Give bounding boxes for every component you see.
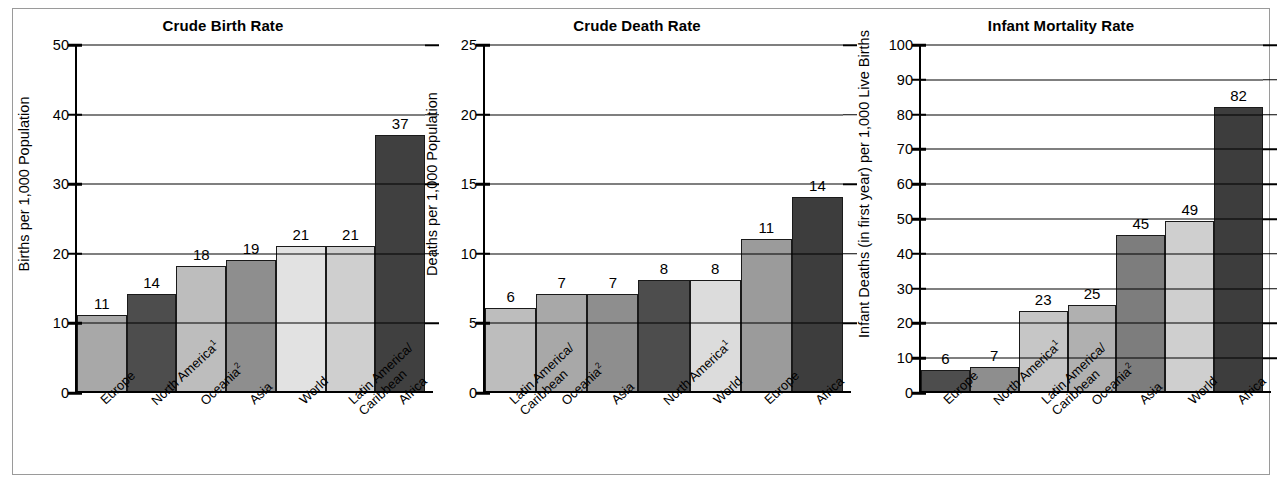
bar-slot: 8 (638, 45, 689, 391)
gridline (921, 79, 1263, 80)
gridline (77, 323, 425, 324)
bar-value-label: 14 (809, 177, 826, 194)
y-tick-label: 10 (897, 350, 913, 366)
gridline (921, 45, 1263, 46)
x-label-slot: Africa (1235, 397, 1268, 412)
y-tick-labels: 01020304050 (35, 45, 75, 393)
bar-value-label: 14 (143, 274, 160, 291)
y-tick-label: 20 (461, 107, 477, 123)
x-label-slot: World (297, 397, 331, 412)
gridline (485, 323, 843, 324)
axes-area: 677881114 (483, 45, 843, 393)
x-tick-labels: Latin America/CaribbeanOceania2AsiaNorth… (483, 393, 843, 485)
bar-value-label: 11 (758, 219, 774, 236)
y-tick-label: 40 (53, 107, 69, 123)
bar-value-label: 7 (558, 274, 566, 291)
y-tick-mark-right (1263, 183, 1277, 185)
y-tick-mark-right (1263, 149, 1277, 151)
gridline (77, 114, 425, 115)
bar-slot: 14 (792, 45, 843, 391)
bar[interactable]: 21 (326, 246, 376, 391)
bar-value-label: 18 (193, 246, 210, 263)
bar-value-label: 8 (660, 260, 668, 277)
y-tick-label: 25 (461, 37, 477, 53)
gridline (921, 253, 1263, 254)
x-label-slot: Africa (813, 397, 846, 412)
y-tick-label: 50 (897, 211, 913, 227)
gridline (77, 45, 425, 46)
x-label-slot: Oceania2 (558, 397, 611, 413)
bar-value-label: 25 (1084, 285, 1101, 302)
y-tick-label: 10 (53, 315, 69, 331)
y-tick-mark-right (1263, 79, 1277, 81)
y-tick-mark-right (1263, 288, 1277, 290)
bar-value-label: 82 (1230, 87, 1247, 104)
x-label-slot: Asia (247, 397, 272, 412)
axes-area: 11141819212137 (75, 45, 425, 393)
bar[interactable]: 21 (276, 246, 326, 391)
bar-value-label: 49 (1181, 201, 1198, 218)
bar[interactable]: 49 (1165, 221, 1214, 391)
bar-slot: 6 (485, 45, 536, 391)
bar-slot: 19 (226, 45, 276, 391)
bar-value-label: 23 (1035, 291, 1052, 308)
gridline (921, 149, 1263, 150)
x-label-slot: Europe (762, 397, 804, 412)
y-tick-label: 20 (53, 246, 69, 262)
y-tick-label: 15 (461, 176, 477, 192)
chart-title: Crude Death Rate (421, 17, 853, 34)
gridline (485, 184, 843, 185)
gridline (921, 219, 1263, 220)
chart-title: Infant Mortality Rate (853, 17, 1269, 34)
y-tick-mark-right (1263, 218, 1277, 220)
y-tick-mark-right (1263, 44, 1277, 46)
bar-slot: 8 (690, 45, 741, 391)
bar-value-label: 21 (342, 226, 359, 243)
chart-title: Crude Birth Rate (13, 17, 433, 34)
y-axis-label: Deaths per 1,000 Population (421, 9, 443, 359)
y-axis-label: Infant Deaths (in first year) per 1,000 … (853, 9, 875, 359)
y-axis-label: Births per 1,000 Population (13, 9, 35, 359)
bar[interactable]: 8 (638, 280, 689, 391)
y-tick-label: 30 (897, 281, 913, 297)
bar-value-label: 6 (941, 350, 949, 367)
gridline (921, 288, 1263, 289)
bar-slot: 18 (176, 45, 226, 391)
bar-value-label: 6 (506, 288, 514, 305)
figure-border: Crude Birth Rate Births per 1,000 Popula… (12, 8, 1270, 475)
bar-value-label: 37 (392, 115, 409, 132)
x-label-slot: World (711, 397, 745, 412)
plot-area: 0510152025 677881114 Latin America/Carib… (443, 45, 843, 393)
y-tick-label: 20 (897, 315, 913, 331)
y-tick-label: 40 (897, 246, 913, 262)
gridline (485, 253, 843, 254)
plot-area: 01020304050 11141819212137 EuropeNorth A… (35, 45, 425, 393)
x-label-slot: Europe (941, 397, 983, 412)
bar-series: 677881114 (485, 45, 843, 391)
y-tick-label: 100 (889, 37, 913, 53)
y-tick-label: 10 (461, 246, 477, 262)
bar-slot: 21 (276, 45, 326, 391)
x-label-slot: Oceania2 (1088, 397, 1141, 413)
bar-series: 11141819212137 (77, 45, 425, 391)
chart-panel-infant-mortality-rate: Infant Mortality Rate Infant Deaths (in … (853, 9, 1269, 476)
y-tick-label: 90 (897, 72, 913, 88)
bar-slot: 11 (741, 45, 792, 391)
bar[interactable]: 14 (792, 197, 843, 391)
bar-slot: 7 (587, 45, 638, 391)
y-tick-label: 80 (897, 107, 913, 123)
y-tick-labels: 0510152025 (443, 45, 483, 393)
gridline (77, 184, 425, 185)
bar-slot: 21 (326, 45, 376, 391)
bar-value-label: 7 (990, 347, 998, 364)
gridline (921, 184, 1263, 185)
x-tick-labels: EuropeNorth America1Oceania2AsiaWorldLat… (75, 393, 425, 485)
axes-area: 672325454982 (919, 45, 1263, 393)
y-tick-label: 50 (53, 37, 69, 53)
bar-value-label: 21 (292, 226, 309, 243)
chart-panel-crude-death-rate: Crude Death Rate Deaths per 1,000 Popula… (421, 9, 853, 476)
y-tick-label: 30 (53, 176, 69, 192)
x-tick-labels: EuropeNorth America1Latin America/Caribb… (919, 393, 1263, 485)
figure-canvas: Crude Birth Rate Births per 1,000 Popula… (0, 0, 1282, 501)
bar[interactable]: 11 (741, 239, 792, 391)
